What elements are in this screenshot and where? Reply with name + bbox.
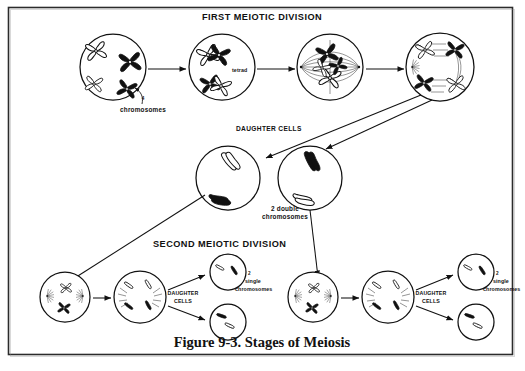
figure-caption: Figure 9-3. Stages of Meiosis [174,334,351,350]
arrow-to-gamete-right-bottom [416,306,453,320]
single-word-left: single [245,278,261,284]
stage-daughter-cell-left [196,146,260,210]
daughter-cells-left-line2: CELLS [174,298,192,304]
arrow-to-daughter-right [326,100,432,149]
stage-gamete-right-top [458,254,494,290]
second-division-title: SECOND MEIOTIC DIVISION [153,239,286,249]
single-count-right: 2 [496,271,499,276]
daughter-cells-left-line1: DAUGHTER [168,290,199,296]
single-word-right: single [493,278,509,284]
chromosomes-label: chromosomes [120,106,166,113]
arrow-to-gamete-right-top [416,275,453,290]
arrow-daughter-right-to-second-division [310,210,318,277]
stage-prophase-ii-left [40,272,90,322]
daughter-cells-right-line1: DAUGHTER [416,290,447,296]
two-double-line1: 2 double [271,205,299,212]
stage-metaphase-i [297,34,363,100]
single-chromosomes-left: chromosomes [235,286,272,292]
arrow-to-gamete-left-top [168,275,205,290]
daughter-cells-upper-label: DAUGHTER CELLS [236,125,302,132]
tetrad-label: tetrad [232,67,247,73]
stage-prophase-i-early [80,34,146,100]
stage-gamete-right-bottom [458,304,494,340]
stage-gamete-left-top [210,254,246,290]
daughter-cells-right-line2: CELLS [422,298,440,304]
stage-anaphase-i [406,33,474,101]
single-count-left: 2 [248,271,251,276]
stage-daughter-cell-right [278,146,342,210]
chromosomes-count-label: 4 [142,96,145,101]
stage-prophase-ii-right [288,272,338,322]
first-division-title: FIRST MEIOTIC DIVISION [202,12,322,22]
arrow-daughter-left-to-second-division [70,195,205,281]
single-chromosomes-right: chromosomes [483,286,520,292]
arrow-to-gamete-left-bottom [168,306,205,320]
two-double-line2: chromosomes [262,213,308,220]
stage-anaphase-ii-left [114,271,166,323]
figure-container: FIRST MEIOTIC DIVISION 4 chromosomes tet… [0,0,525,371]
stage-anaphase-ii-right [362,271,414,323]
